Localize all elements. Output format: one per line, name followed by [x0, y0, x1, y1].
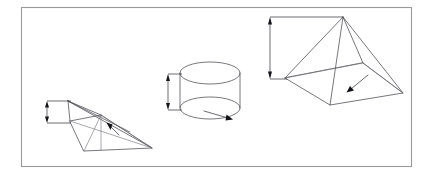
figure-container: [0, 0, 432, 177]
solids-diagram: [0, 0, 432, 177]
